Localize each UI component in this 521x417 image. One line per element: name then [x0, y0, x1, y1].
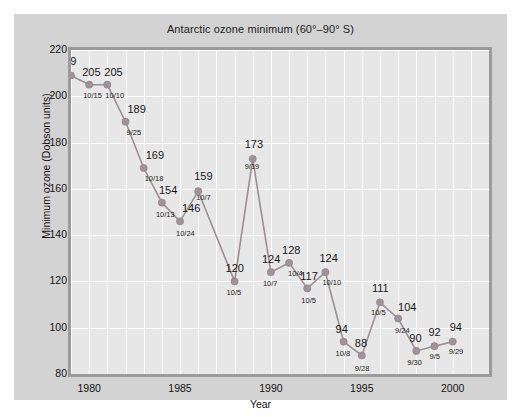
data-point-date: 10/7 — [196, 193, 211, 203]
x-tick-label: 1995 — [339, 382, 385, 394]
data-point-value: 173 — [245, 139, 263, 149]
data-point-date: 10/10 — [322, 278, 341, 288]
data-point-value: 124 — [262, 254, 280, 264]
data-point-date: 9/19 — [245, 162, 260, 172]
y-tick-label: 120 — [35, 274, 67, 286]
x-tick-label: 1990 — [248, 382, 294, 394]
data-point-value: 128 — [282, 245, 300, 255]
data-point-value: 94 — [450, 322, 462, 332]
data-point-date: 10/7 — [263, 279, 278, 289]
data-point-marker — [140, 164, 147, 171]
data-point-value: 189 — [128, 104, 146, 114]
data-point-marker — [86, 81, 93, 88]
data-point-marker — [358, 352, 365, 359]
series-line — [71, 76, 453, 356]
data-point-date: 9/28 — [355, 364, 370, 374]
data-point-value: 104 — [398, 302, 416, 312]
chart-page: Antarctic ozone minimum (60°–90° S) 2099… — [0, 0, 521, 417]
data-point-marker — [395, 315, 402, 322]
figure-panel: Antarctic ozone minimum (60°–90° S) 2099… — [14, 14, 507, 400]
data-point-marker — [71, 72, 75, 79]
data-point-date: 10/8 — [336, 349, 351, 359]
data-point-value: 94 — [336, 324, 348, 334]
data-point-date: 9/25 — [127, 128, 142, 138]
data-point-marker — [340, 338, 347, 345]
y-axis-label: Minimum ozone (Dobson units) — [40, 56, 52, 276]
data-point-value: 205 — [82, 67, 100, 77]
data-point-marker — [231, 278, 238, 285]
data-point-date: 9/24 — [395, 326, 410, 336]
x-tick-label: 1985 — [157, 382, 203, 394]
data-point-date: 10/13 — [156, 210, 175, 220]
data-point-marker — [322, 269, 329, 276]
data-point-value: 88 — [355, 338, 367, 348]
data-point-marker — [304, 285, 311, 292]
x-tick-label: 1980 — [66, 382, 112, 394]
data-point-marker — [449, 338, 456, 345]
data-point-date: 10/10 — [105, 91, 124, 101]
data-point-marker — [376, 299, 383, 306]
data-point-marker — [431, 343, 438, 350]
data-point-value: 169 — [146, 150, 164, 160]
data-point-marker — [104, 81, 111, 88]
data-series — [71, 50, 489, 374]
y-tick-label: 220 — [35, 43, 67, 55]
data-point-value: 146 — [182, 203, 200, 213]
data-point-value: 92 — [429, 327, 441, 337]
data-point-value: 159 — [194, 171, 212, 181]
data-point-value: 117 — [300, 271, 318, 281]
data-point-marker — [413, 347, 420, 354]
data-point-date: 10/5 — [371, 308, 386, 318]
data-point-value: 154 — [159, 185, 177, 195]
data-point-value: 90 — [409, 333, 421, 343]
y-tick-label: 100 — [35, 321, 67, 333]
data-point-date: 9/30 — [407, 358, 422, 368]
plot-area: 2099/1720510/1520510/101899/2516910/1815… — [71, 50, 489, 374]
data-point-date: 9/5 — [430, 352, 440, 362]
data-point-date: 10/5 — [301, 296, 316, 306]
data-point-marker — [122, 118, 129, 125]
data-point-marker — [286, 259, 293, 266]
chart-title: Antarctic ozone minimum (60°–90° S) — [14, 23, 507, 35]
data-point-marker — [158, 199, 165, 206]
data-point-value: 124 — [319, 253, 337, 263]
data-point-value: 205 — [104, 67, 122, 77]
x-tick-label: 2000 — [430, 382, 476, 394]
data-point-date: 10/5 — [227, 288, 242, 298]
series-markers — [71, 72, 456, 359]
data-point-value: 120 — [226, 263, 244, 273]
data-point-date: 9/29 — [449, 347, 464, 357]
data-point-value: 209 — [71, 56, 76, 66]
x-axis-label: Year — [14, 398, 507, 410]
data-point-marker — [176, 218, 183, 225]
data-point-date: 10/24 — [176, 229, 195, 239]
y-tick-label: 80 — [35, 367, 67, 379]
data-point-date: 10/18 — [145, 174, 164, 184]
data-point-value: 111 — [372, 283, 389, 293]
data-point-marker — [267, 269, 274, 276]
data-point-date: 10/15 — [83, 91, 102, 101]
